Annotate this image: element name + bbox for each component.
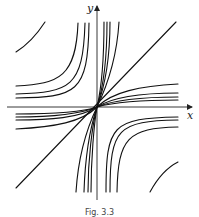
trajectory-q4-hyperbola <box>117 127 178 192</box>
figure-caption: Fig. 3.3 <box>0 208 199 217</box>
trajectory-q2-hyperbola <box>16 23 78 86</box>
trajectory-q2-corner <box>16 22 45 52</box>
x-axis-label: x <box>187 109 194 122</box>
trajectory-q4-hyperbola <box>106 117 178 192</box>
trajectory-q4-corner <box>150 162 178 192</box>
phase-portrait-figure: y x <box>0 0 199 217</box>
trajectory-q2-hyperbola <box>16 23 85 94</box>
trajectory-diagonal <box>16 22 176 188</box>
y-axis-label: y <box>86 2 94 15</box>
trajectory-q1-vertical <box>97 22 107 107</box>
trajectory-q2-hyperbola <box>16 23 89 98</box>
